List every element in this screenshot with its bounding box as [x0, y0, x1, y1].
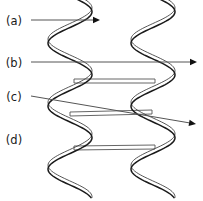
- labels-group: (a)(b)(c)(d): [6, 14, 22, 147]
- leader-a-arrowhead: [93, 17, 100, 23]
- leader-b-arrowhead: [190, 59, 197, 65]
- label-c: (c): [6, 90, 21, 104]
- label-a: (a): [6, 14, 22, 28]
- helix-left-strand-front: [48, 0, 92, 198]
- helix-left: [48, 0, 92, 198]
- helix-right-strand-front: [131, 0, 175, 198]
- helix-diagram: (a)(b)(c)(d): [0, 0, 203, 201]
- label-b: (b): [6, 56, 22, 70]
- leader-c-line: [31, 96, 189, 123]
- leader-b: [31, 59, 197, 65]
- leaders-group: [31, 17, 197, 126]
- helices-group: [48, 0, 175, 198]
- leader-c-arrowhead: [189, 120, 196, 126]
- leader-a: [31, 17, 100, 23]
- label-d: (d): [6, 133, 22, 147]
- helix-right: [131, 0, 175, 198]
- figure-canvas: (a)(b)(c)(d): [0, 0, 203, 201]
